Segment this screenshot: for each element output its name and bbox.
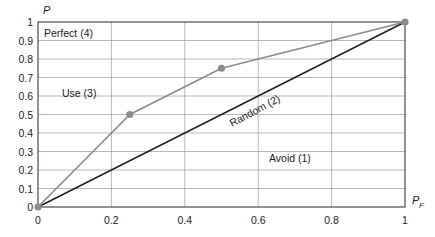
x-tick-label-0.6: 0.6 xyxy=(251,214,266,226)
y-tick-label-0.5: 0.5 xyxy=(18,109,33,121)
data-point-0 xyxy=(34,203,41,210)
x-tick-label-1: 1 xyxy=(402,214,408,226)
data-point-3 xyxy=(401,18,408,25)
annotation-perfect: Perfect (4) xyxy=(44,27,93,39)
y-tick-label-0.8: 0.8 xyxy=(18,53,33,65)
x-tick-label-0: 0 xyxy=(35,214,41,226)
annotation-use: Use (3) xyxy=(62,87,96,99)
x-tick-label-0.4: 0.4 xyxy=(177,214,192,226)
y-axis-tick-labels: 1 0.9 0.8 0.7 0.6 0.5 0.4 0.3 0.2 0.1 0 xyxy=(18,16,33,213)
y-tick-label-0.9: 0.9 xyxy=(18,35,33,47)
y-tick-label-0.7: 0.7 xyxy=(18,72,33,84)
x-tick-label-0.2: 0.2 xyxy=(104,214,119,226)
y-tick-label-0.2: 0.2 xyxy=(18,164,33,176)
annotation-avoid: Avoid (1) xyxy=(269,152,311,164)
y-tick-label-0.6: 0.6 xyxy=(18,90,33,102)
y-tick-label-0.3: 0.3 xyxy=(18,146,33,158)
y-tick-label-1: 1 xyxy=(27,16,33,28)
data-point-1 xyxy=(126,111,133,118)
chart-screenshot: 1 0.9 0.8 0.7 0.6 0.5 0.4 0.3 0.2 0.1 0 … xyxy=(0,0,435,237)
data-point-2 xyxy=(218,65,225,72)
y-tick-label-0.1: 0.1 xyxy=(18,183,33,195)
y-tick-label-0.4: 0.4 xyxy=(18,127,33,139)
y-tick-label-0: 0 xyxy=(27,201,33,213)
y-axis-title: P xyxy=(43,4,51,16)
roc-chart: 1 0.9 0.8 0.7 0.6 0.5 0.4 0.3 0.2 0.1 0 … xyxy=(0,0,435,237)
x-tick-label-0.8: 0.8 xyxy=(324,214,339,226)
